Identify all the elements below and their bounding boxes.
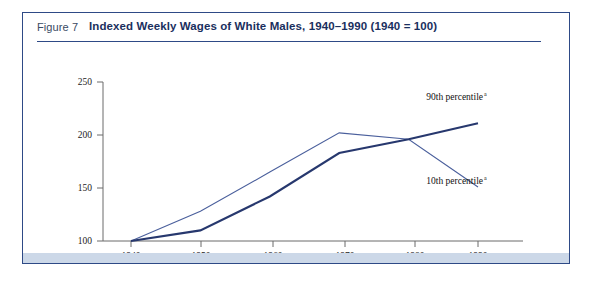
figure-header: Figure 7 Indexed Weekly Wages of White M… xyxy=(23,13,569,43)
figure-title: Indexed Weekly Wages of White Males, 194… xyxy=(89,20,437,32)
figure-number-label: Figure 7 xyxy=(37,21,78,33)
y-tick-label: 150 xyxy=(78,183,93,193)
annotation-10th-percentile: 10th percentile a xyxy=(426,175,487,186)
y-tick-label: 250 xyxy=(78,77,93,87)
annotation-90th-percentile-footnote: a xyxy=(484,91,487,97)
footer-band xyxy=(23,253,569,263)
annotation-90th-percentile: 90th percentile a xyxy=(426,91,487,102)
annotation-10th-percentile-footnote: a xyxy=(484,175,487,181)
line-chart: 250 200 150 100 1940 1950 1960 1970 1980 xyxy=(23,43,569,263)
y-axis-tick-labels: 250 200 150 100 xyxy=(78,77,93,246)
chart-plot-area: 250 200 150 100 1940 1950 1960 1970 1980 xyxy=(23,43,569,263)
x-axis-ticks xyxy=(131,241,478,247)
y-tick-label: 200 xyxy=(78,130,93,140)
y-tick-label: 100 xyxy=(78,236,93,246)
figure-card: Figure 7 Indexed Weekly Wages of White M… xyxy=(22,12,570,264)
header-divider xyxy=(37,41,541,42)
annotation-10th-percentile-label: 10th percentile xyxy=(426,176,483,186)
series-line-10th-percentile xyxy=(131,133,478,241)
y-axis-ticks xyxy=(97,82,103,241)
annotation-90th-percentile-label: 90th percentile xyxy=(426,92,483,102)
